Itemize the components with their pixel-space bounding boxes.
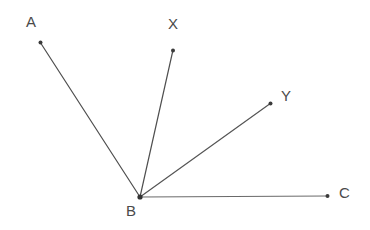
point-label-a: A	[26, 14, 37, 29]
point-label-c: C	[339, 185, 350, 200]
ray-bx-arrowhead	[171, 49, 175, 53]
geometry-diagram: A X Y C B	[0, 0, 370, 230]
point-label-x: X	[168, 16, 179, 31]
vertex-dot-b	[137, 194, 142, 199]
ray-bc-arrowhead	[326, 194, 330, 198]
point-label-b: B	[126, 203, 137, 218]
point-label-y: Y	[281, 88, 292, 103]
ray-ba-arrowhead	[39, 41, 43, 45]
diagram-background	[0, 0, 370, 230]
rays-canvas	[0, 0, 370, 230]
ray-by-arrowhead	[269, 102, 273, 106]
